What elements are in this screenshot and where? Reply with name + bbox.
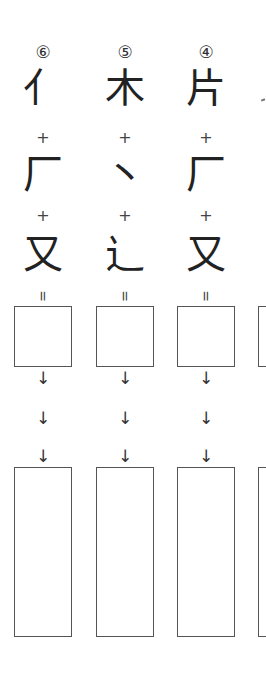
component-1: 木 [95, 66, 155, 110]
component-3: 又 [176, 232, 236, 276]
plus-sign: + [176, 128, 236, 147]
component-2: 厂 [176, 152, 236, 196]
question-number: ⑥ [13, 42, 73, 62]
component-1: 片 [176, 66, 236, 110]
equals-sign: = [13, 288, 73, 304]
component-2: 丶 [95, 152, 155, 196]
answer-word-box[interactable] [96, 467, 154, 637]
column-4: ④ 片 + 厂 + 又 = ↓ ↓ ↓ [176, 0, 236, 673]
plus-sign: + [176, 206, 236, 225]
partial-stroke [261, 98, 265, 101]
plus-sign: + [13, 206, 73, 225]
question-number: ④ [176, 42, 236, 62]
down-arrow-icon: ↓ [95, 447, 155, 465]
equals-sign: = [95, 288, 155, 304]
down-arrow-icon: ↓ [176, 409, 236, 427]
answer-kanji-box[interactable] [14, 306, 72, 367]
component-3: 辶 [95, 232, 155, 276]
component-3: 又 [13, 232, 73, 276]
down-arrow-icon: ↓ [13, 409, 73, 427]
down-arrow-icon: ↓ [95, 369, 155, 387]
down-arrow-icon: ↓ [176, 369, 236, 387]
component-1: 亻 [13, 66, 73, 110]
answer-kanji-box[interactable] [96, 306, 154, 367]
down-arrow-icon: ↓ [95, 409, 155, 427]
equals-sign: = [176, 288, 236, 304]
question-number: ⑤ [95, 42, 155, 62]
component-2: 厂 [13, 152, 73, 196]
down-arrow-icon: ↓ [176, 447, 236, 465]
down-arrow-icon: ↓ [13, 447, 73, 465]
partial-word-box[interactable] [258, 467, 266, 637]
partial-kanji-box[interactable] [258, 306, 266, 367]
plus-sign: + [95, 206, 155, 225]
plus-sign: + [95, 128, 155, 147]
answer-kanji-box[interactable] [177, 306, 235, 367]
column-5: ⑤ 木 + 丶 + 辶 = ↓ ↓ ↓ [95, 0, 155, 673]
column-6: ⑥ 亻 + 厂 + 又 = ↓ ↓ ↓ [13, 0, 73, 673]
answer-word-box[interactable] [14, 467, 72, 637]
down-arrow-icon: ↓ [13, 369, 73, 387]
plus-sign: + [13, 128, 73, 147]
answer-word-box[interactable] [177, 467, 235, 637]
